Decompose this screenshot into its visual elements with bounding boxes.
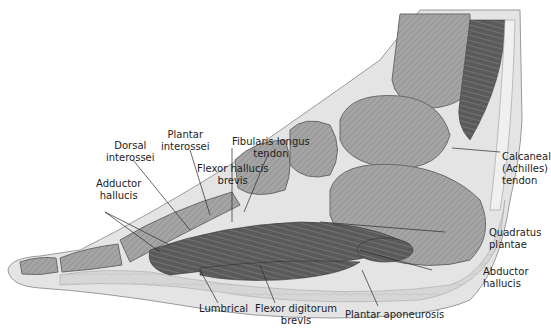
- label-line: (Achilles): [502, 163, 551, 175]
- distal-phalanx: [20, 258, 58, 275]
- label-line: plantae: [489, 239, 541, 251]
- label-flexor-digitorum-brevis: Flexor digitorum brevis: [255, 303, 337, 327]
- label-line: brevis: [255, 315, 337, 327]
- label-adductor-hallucis: Adductor hallucis: [96, 178, 141, 202]
- label-line: Plantar: [161, 129, 210, 141]
- label-line: hallucis: [483, 278, 529, 290]
- label-line: tendon: [232, 148, 310, 160]
- label-calcaneal-tendon: Calcaneal (Achilles) tendon: [502, 151, 551, 187]
- label-line: Flexor digitorum: [255, 303, 337, 315]
- label-line: Adductor: [96, 178, 141, 190]
- label-line: tendon: [502, 175, 551, 187]
- label-line: interossei: [161, 141, 210, 153]
- label-line: Dorsal: [106, 140, 155, 152]
- label-line: Flexor hallucis: [197, 163, 268, 175]
- label-line: interossei: [106, 152, 155, 164]
- label-line: hallucis: [96, 190, 141, 202]
- label-line: Abductor: [483, 266, 529, 278]
- label-plantar-interossei: Plantar interossei: [161, 129, 210, 153]
- label-flexor-hallucis-brevis: Flexor hallucis brevis: [197, 163, 268, 187]
- tibia: [392, 14, 470, 108]
- label-dorsal-interossei: Dorsal interossei: [106, 140, 155, 164]
- label-fibularis-longus-tendon: Fibularis longus tendon: [232, 136, 310, 160]
- label-line: brevis: [197, 175, 268, 187]
- label-line: Quadratus: [489, 227, 541, 239]
- label-line: Calcaneal: [502, 151, 551, 163]
- label-plantar-aponeurosis: Plantar aponeurosis: [345, 309, 444, 321]
- label-abductor-hallucis: Abductor hallucis: [483, 266, 529, 290]
- abductor-hallucis-muscle: [357, 238, 413, 262]
- label-quadratus-plantae: Quadratus plantae: [489, 227, 541, 251]
- label-line: Fibularis longus: [232, 136, 310, 148]
- label-line: Plantar aponeurosis: [345, 309, 444, 321]
- label-lumbrical: Lumbrical: [199, 303, 248, 315]
- label-line: Lumbrical: [199, 303, 248, 315]
